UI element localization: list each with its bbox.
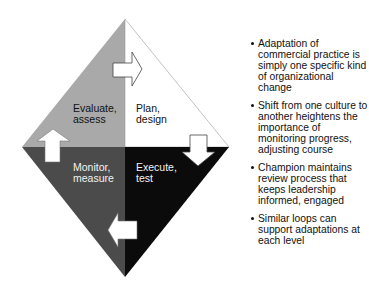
bullet-item: Shift from one culture to another height…	[251, 100, 369, 155]
label-execute: Execute, test	[136, 162, 177, 184]
bullet-dot-icon	[251, 166, 254, 169]
bullet-item: Adaptation of commercial practice is sim…	[251, 38, 369, 93]
bullet-text: Champion maintains review process that k…	[258, 162, 352, 206]
label-evaluate: Evaluate, assess	[73, 103, 117, 125]
bullet-item: Similar loops can support adaptations at…	[251, 213, 369, 246]
label-monitor: Monitor, measure	[73, 162, 114, 184]
quadrant-evaluate	[22, 19, 125, 147]
bullet-dot-icon	[251, 104, 254, 107]
bullet-text: Similar loops can support adaptations at…	[258, 213, 360, 246]
bullet-list: Adaptation of commercial practice is sim…	[251, 38, 369, 253]
label-plan: Plan, design	[136, 103, 167, 125]
bullet-item: Champion maintains review process that k…	[251, 162, 369, 206]
bullet-dot-icon	[251, 217, 254, 220]
bullet-text: Shift from one culture to another height…	[258, 100, 367, 155]
bullet-text: Adaptation of commercial practice is sim…	[258, 38, 366, 93]
quadrant-plan	[125, 19, 229, 147]
bullet-dot-icon	[251, 42, 254, 45]
cycle-diamond-diagram	[0, 0, 250, 295]
